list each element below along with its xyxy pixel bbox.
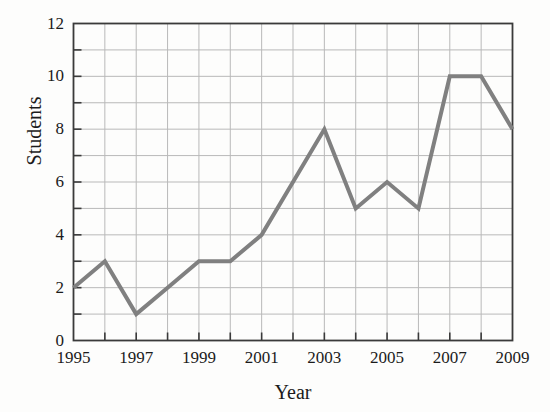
y-axis-tick-label: 8 [4, 119, 64, 139]
y-axis-tick-label: 10 [4, 66, 64, 86]
y-axis-tick-label: 2 [4, 278, 64, 298]
y-axis-tick-label: 12 [4, 14, 64, 34]
x-axis-tick-label: 1997 [101, 348, 171, 368]
chart-title [0, 0, 550, 1]
line-chart-figure: Students Year 024681012 1995199719992001… [0, 0, 550, 412]
x-axis-tick-label: 2003 [289, 348, 359, 368]
x-axis-tick-label: 1999 [164, 348, 234, 368]
y-axis-tick-label: 4 [4, 225, 64, 245]
x-axis-tick-label: 2005 [352, 348, 422, 368]
x-axis-tick-label: 2009 [478, 348, 548, 368]
x-axis-tick-label: 2007 [415, 348, 485, 368]
x-axis-tick-label: 2001 [227, 348, 297, 368]
y-axis-tick-label: 6 [4, 172, 64, 192]
x-axis-tick-label: 1995 [39, 348, 109, 368]
x-axis-title: Year [73, 381, 513, 404]
